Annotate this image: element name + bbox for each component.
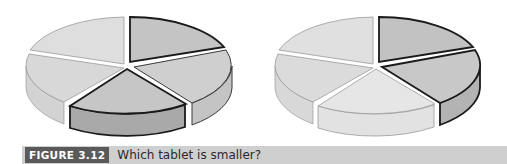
figure-caption: Which tablet is smaller? — [117, 148, 261, 162]
figure-caption-bar: FIGURE 3.12 Which tablet is smaller? — [22, 146, 507, 164]
right-pie-chart — [275, 17, 480, 136]
figure-label: FIGURE 3.12 — [25, 147, 109, 163]
left-pie-chart — [26, 17, 232, 136]
figure-illustration — [0, 0, 507, 164]
